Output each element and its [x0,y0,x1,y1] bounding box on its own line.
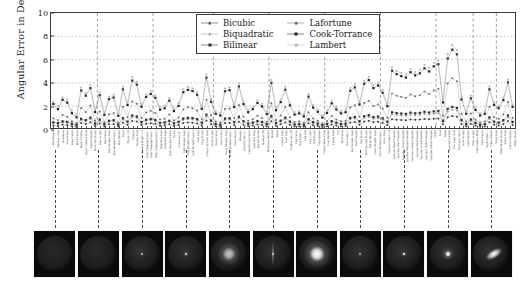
x-axis-label: Aluminium [63,130,66,143]
thumbnail-connector [317,150,318,228]
x-axis-label: Polyurethane Foam [324,130,327,153]
x-tick [477,126,478,129]
x-tick [324,126,325,129]
x-axis-label: Pink Fabric [296,130,299,144]
x-axis-label: Chrome Steel [137,130,140,147]
x-axis-label: Purple Paint [333,130,336,145]
x-tick [235,126,236,129]
thumbnail-connector [186,150,187,228]
y-tick-mark [51,59,54,60]
x-axis-label: Fruitwood 241 [179,130,182,148]
x-tick [515,126,516,129]
thumbnail-connector [55,150,56,228]
x-axis-label: Blue Acrylic [100,130,103,145]
x-axis-label: Pink Jasper [310,130,313,144]
legend-marker-icon [287,31,304,38]
x-tick [356,126,357,129]
x-axis-label: Silver Paint [384,130,387,144]
x-axis-label: Red Phenolic [356,130,359,146]
x-tick [342,126,343,129]
x-axis-label: Color Changing Paint 1 [147,130,150,158]
x-tick [361,126,362,129]
x-axis-label: Green Acrylic [212,130,215,147]
x-tick [123,126,124,129]
x-tick [184,126,185,129]
brdf-sphere-thumbnail [470,230,513,278]
x-tick [501,126,502,129]
legend-item-bicubic[interactable]: Bicubic [201,18,273,28]
legend-item-bilinear[interactable]: Bilinear [201,40,273,50]
x-tick [81,126,82,129]
x-tick [463,126,464,129]
specular-highlight [358,252,362,256]
x-tick [212,126,213,129]
x-tick [91,126,92,129]
x-tick [375,126,376,129]
x-tick [282,126,283,129]
legend-label: Cook-Torrance [309,29,372,39]
x-tick [454,126,455,129]
x-axis-label: Dark Red Paint [165,130,168,148]
x-tick [352,126,353,129]
x-tick [221,126,222,129]
x-axis-label: Red Specular Plastic [366,130,369,155]
x-tick [193,126,194,129]
x-tick [449,126,450,129]
x-tick [105,126,106,129]
legend-item-lafortune[interactable]: Lafortune [287,18,372,28]
x-tick [384,126,385,129]
x-tick [286,126,287,129]
legend-label: Biquadratic [223,29,273,39]
legend-label: Lambert [309,40,346,50]
x-tick [468,126,469,129]
legend-item-lambert[interactable]: Lambert [287,40,372,50]
x-axis-label: Hematite [240,130,243,141]
x-axis-label: Specular Violet Phenolic [421,130,424,160]
x-tick [431,126,432,129]
specular-highlight [140,252,144,256]
x-tick [72,126,73,129]
x-tick [412,126,413,129]
x-tick [142,126,143,129]
x-tick [440,126,441,129]
x-axis-labels: Alum BronzeAlumina OxideAluminiumAventur… [50,130,516,215]
x-tick [300,126,301,129]
thumbnail-connector [404,150,405,228]
x-axis-label: Violet Rubber [468,130,471,147]
x-axis-label: White Marble [491,130,494,147]
x-tick [505,126,506,129]
x-axis-label: Two Layer Gold [454,130,457,149]
x-tick [174,126,175,129]
x-axis-label: Yellow Phenolic [510,130,513,149]
x-tick [165,126,166,129]
x-tick [394,126,395,129]
brdf-sphere-thumbnail [33,230,76,278]
x-tick [421,126,422,129]
x-axis-label: Beige Fabric [72,130,75,145]
brdf-sphere-thumbnail [426,230,469,278]
legend-marker-icon [287,20,304,27]
legend-item-cook-torrance[interactable]: Cook-Torrance [287,29,372,39]
x-tick [249,126,250,129]
thumbnail-connector [491,150,492,228]
legend-marker-icon [201,42,218,49]
x-axis-label: Blue Metallic Paint 2 [114,130,117,155]
legend-label: Lafortune [309,18,351,28]
x-tick [319,126,320,129]
x-tick [398,126,399,129]
x-tick [151,126,152,129]
x-axis-label: White Paint [496,130,499,144]
x-tick [95,126,96,129]
x-tick [137,126,138,129]
x-tick [491,126,492,129]
x-axis-label: Orange Paint [282,130,285,146]
x-tick [244,126,245,129]
y-tick-mark [51,106,54,107]
legend-item-biquadratic[interactable]: Biquadratic [201,29,273,39]
x-tick [417,126,418,129]
specular-highlight [442,248,454,260]
x-axis-label: Green Metallic Paint [226,130,229,155]
y-tick-mark [51,36,54,37]
x-axis-label: Chrome [133,130,136,140]
x-axis-label: Blue Rubber [119,130,122,145]
